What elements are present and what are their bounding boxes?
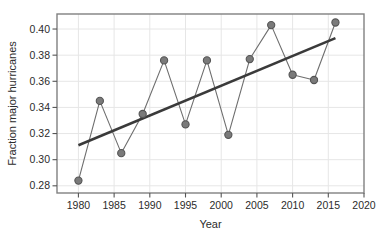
data-point-marker bbox=[289, 71, 296, 78]
data-point-marker bbox=[246, 55, 253, 62]
data-point-marker bbox=[203, 57, 210, 64]
x-tick-label: 2020 bbox=[352, 199, 376, 211]
hurricane-fraction-line-chart: 198019851990199520002005201020152020 0.2… bbox=[0, 0, 390, 238]
y-tick-label: 0.32 bbox=[30, 127, 51, 139]
x-tick-label: 2000 bbox=[210, 199, 234, 211]
x-tick-label: 1995 bbox=[174, 199, 198, 211]
data-point-marker bbox=[139, 110, 146, 117]
x-axis-title: Year bbox=[199, 218, 222, 230]
x-tick-labels: 198019851990199520002005201020152020 bbox=[67, 199, 376, 211]
x-tick-label: 2015 bbox=[317, 199, 341, 211]
data-point-marker bbox=[160, 57, 167, 64]
x-tick-label: 1980 bbox=[67, 199, 91, 211]
data-point-marker bbox=[225, 131, 232, 138]
x-tick-label: 1990 bbox=[138, 199, 162, 211]
data-point-marker bbox=[182, 121, 189, 128]
y-axis-title: Fraction major hurricanes bbox=[6, 41, 18, 166]
y-tick-label: 0.28 bbox=[30, 179, 51, 191]
data-point-marker bbox=[310, 76, 317, 83]
y-tick-label: 0.38 bbox=[30, 49, 51, 61]
data-point-marker bbox=[96, 97, 103, 104]
x-tick-label: 2005 bbox=[245, 199, 269, 211]
y-tick-label: 0.36 bbox=[30, 75, 51, 87]
data-point-marker bbox=[75, 177, 82, 184]
y-tick-label: 0.30 bbox=[30, 153, 51, 165]
data-point-marker bbox=[118, 150, 125, 157]
chart-figure: 198019851990199520002005201020152020 0.2… bbox=[0, 0, 390, 238]
x-tick-label: 2010 bbox=[281, 199, 305, 211]
y-tick-label: 0.34 bbox=[30, 101, 51, 113]
y-tick-label: 0.40 bbox=[30, 23, 51, 35]
x-tick-label: 1985 bbox=[102, 199, 126, 211]
data-point-marker bbox=[268, 22, 275, 29]
data-point-marker bbox=[332, 19, 339, 26]
